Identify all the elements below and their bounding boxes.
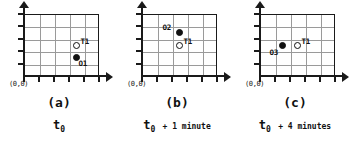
- marker-label-o2: O2: [163, 23, 172, 32]
- time-prefix: t: [143, 118, 150, 132]
- y-axis-tick: [254, 25, 261, 27]
- y-axis-arrow-icon: [255, 1, 265, 8]
- gridline-horizontal: [143, 52, 216, 53]
- marker-o3: [279, 42, 286, 49]
- origin-label: (0,0): [127, 80, 146, 88]
- x-axis-tick: [98, 75, 100, 82]
- x-axis-tick: [274, 75, 276, 82]
- origin-label: (0,0): [245, 80, 264, 88]
- y-axis-tick: [136, 13, 143, 15]
- y-axis-tick: [254, 63, 261, 65]
- panel-caption-letter: (c): [236, 95, 353, 110]
- gridline-vertical: [321, 15, 322, 75]
- x-axis-tick: [53, 75, 55, 82]
- x-axis-tick: [201, 75, 203, 82]
- gridline-vertical: [40, 15, 41, 75]
- marker-label-t1: T1: [184, 37, 193, 46]
- x-axis-tick: [319, 75, 321, 82]
- y-axis: [23, 6, 25, 82]
- tracking-sequence-figure: (0,0)T1O1(a)t0(0,0)O2T1(b)t0 + 1 minute(…: [0, 0, 353, 146]
- y-axis-tick: [254, 50, 261, 52]
- x-axis-tick: [289, 75, 291, 82]
- x-axis-tick: [171, 75, 173, 82]
- gridline-vertical: [70, 15, 71, 75]
- y-axis-tick: [254, 38, 261, 40]
- y-axis-tick: [18, 13, 25, 15]
- panel-caption-letter: (b): [118, 95, 236, 110]
- y-axis-arrow-icon: [19, 1, 29, 8]
- x-axis-arrow-icon: [106, 72, 113, 82]
- panel-b: (0,0)O2T1(b)t0 + 1 minute: [118, 0, 236, 146]
- y-axis-tick: [136, 25, 143, 27]
- gridline-horizontal: [143, 40, 216, 41]
- marker-label-o3: O3: [270, 48, 279, 57]
- panel-a: (0,0)T1O1(a)t0: [0, 0, 118, 146]
- gridline-vertical: [291, 15, 292, 75]
- marker-t1: [176, 42, 183, 49]
- gridline-horizontal: [143, 65, 216, 66]
- y-axis-tick: [254, 13, 261, 15]
- x-axis-tick: [334, 75, 336, 82]
- marker-label-o1: O1: [79, 59, 88, 68]
- marker-t1: [294, 42, 301, 49]
- y-axis-tick: [136, 38, 143, 40]
- time-subscript: 0: [151, 125, 156, 134]
- panel-c: (0,0)O3T1(c)t0 + 4 minutes: [236, 0, 353, 146]
- gridline-vertical: [55, 15, 56, 75]
- gridline-horizontal: [25, 27, 98, 28]
- gridline-vertical: [203, 15, 204, 75]
- x-axis-arrow-icon: [342, 72, 349, 82]
- time-prefix: t: [259, 118, 266, 132]
- x-axis: [259, 75, 345, 77]
- gridline-horizontal: [261, 40, 334, 41]
- y-axis-tick: [136, 63, 143, 65]
- x-axis: [141, 75, 227, 77]
- y-axis-tick: [18, 38, 25, 40]
- marker-t1: [73, 42, 80, 49]
- x-axis: [23, 75, 109, 77]
- x-axis-tick: [68, 75, 70, 82]
- x-axis-tick: [38, 75, 40, 82]
- y-axis-tick: [136, 50, 143, 52]
- time-subscript: 0: [60, 125, 65, 134]
- panel-caption-letter: (a): [0, 95, 118, 110]
- gridline-vertical: [276, 15, 277, 75]
- y-axis-tick: [18, 50, 25, 52]
- x-axis-tick: [156, 75, 158, 82]
- gridline-vertical: [158, 15, 159, 75]
- x-axis-tick: [83, 75, 85, 82]
- time-suffix: + 4 minutes: [278, 122, 331, 131]
- gridline-horizontal: [143, 27, 216, 28]
- gridline-horizontal: [261, 65, 334, 66]
- time-subscript: 0: [266, 125, 271, 134]
- y-axis: [259, 6, 261, 82]
- y-axis: [141, 6, 143, 82]
- x-axis-tick: [216, 75, 218, 82]
- x-axis-tick: [304, 75, 306, 82]
- y-axis-tick: [18, 25, 25, 27]
- gridline-horizontal: [261, 27, 334, 28]
- y-axis-arrow-icon: [137, 1, 147, 8]
- marker-label-t1: T1: [302, 37, 311, 46]
- gridline-vertical: [173, 15, 174, 75]
- gridline-horizontal: [25, 52, 98, 53]
- panel-caption-time: t0: [0, 118, 118, 134]
- panel-caption-time: t0 + 1 minute: [118, 118, 236, 134]
- marker-label-t1: T1: [81, 37, 90, 46]
- panel-caption-time: t0 + 4 minutes: [236, 118, 353, 134]
- y-axis-tick: [18, 63, 25, 65]
- x-axis-arrow-icon: [224, 72, 231, 82]
- x-axis-tick: [186, 75, 188, 82]
- time-suffix: + 1 minute: [163, 122, 211, 131]
- origin-label: (0,0): [9, 80, 28, 88]
